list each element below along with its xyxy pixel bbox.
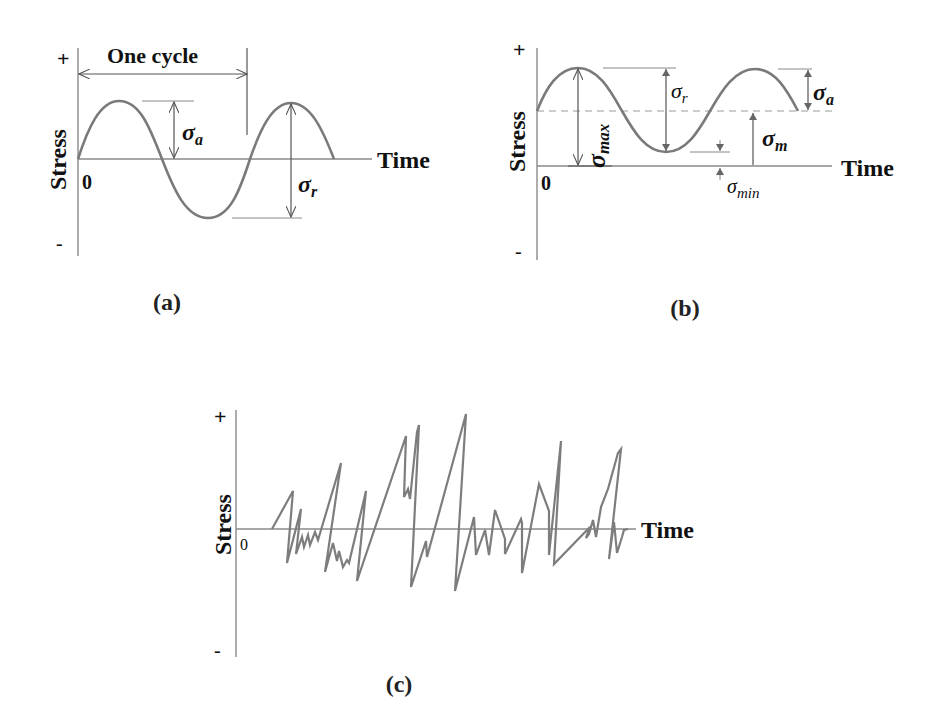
- random-stress-history: [272, 414, 628, 591]
- caption-a: (a): [153, 289, 181, 315]
- panel-b: + - 0 Stress Time σmax σr σmin σm σa (b): [504, 37, 894, 321]
- offset-sine-wave: [537, 68, 798, 152]
- time-axis-label: Time: [641, 517, 694, 543]
- minus-label: -: [214, 639, 221, 661]
- origin-label: 0: [541, 172, 551, 194]
- time-axis-label: Time: [841, 155, 894, 181]
- one-cycle-label: One cycle: [107, 43, 198, 68]
- origin-label: 0: [82, 171, 92, 193]
- panel-c: + - 0 Stress Time (c): [210, 404, 694, 697]
- panel-a: + - 0 Stress Time One cycle σa σr (a): [45, 43, 430, 315]
- minus-label: -: [56, 232, 63, 254]
- stress-axis-label: Stress: [45, 129, 71, 190]
- sigma-max-label: σmax: [582, 123, 613, 168]
- caption-c: (c): [386, 671, 413, 697]
- sigma-r-label: σr: [298, 171, 318, 200]
- minus-label: -: [515, 240, 522, 262]
- caption-b: (b): [670, 295, 699, 321]
- sigma-r-label: σr: [671, 78, 688, 106]
- origin-label: 0: [240, 536, 248, 553]
- plus-label: +: [513, 37, 526, 62]
- sigma-a-label: σa: [813, 79, 834, 108]
- stress-axis-label: Stress: [210, 494, 236, 555]
- sigma-m-label: σm: [762, 125, 787, 154]
- plus-label: +: [214, 404, 227, 429]
- stress-axis-label: Stress: [504, 111, 530, 172]
- sigma-min-label: σmin: [727, 175, 759, 201]
- figure-canvas: + - 0 Stress Time One cycle σa σr (a) + …: [0, 0, 944, 727]
- sigma-a-label: σa: [182, 119, 203, 148]
- time-axis-label: Time: [377, 147, 430, 173]
- plus-label: +: [57, 46, 70, 71]
